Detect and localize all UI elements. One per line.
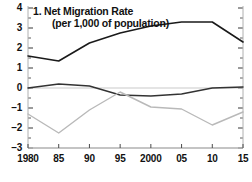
y-axis-tick-label: –2 xyxy=(0,123,22,133)
y-axis-tick-label: 0 xyxy=(0,83,22,93)
y-axis-tick-label: 2 xyxy=(0,43,22,53)
y-axis-tick-label: 3 xyxy=(0,23,22,33)
y-axis-tick-label: 4 xyxy=(0,3,22,13)
y-axis-tick-label: 1 xyxy=(0,63,22,73)
net-migration-rate-chart: 1. Net Migration Rate (per 1,000 of popu… xyxy=(0,0,252,182)
y-axis-tick-label: –3 xyxy=(0,143,22,153)
y-axis-tick-label: –1 xyxy=(0,103,22,113)
x-axis-tick-label: 15 xyxy=(223,154,252,164)
